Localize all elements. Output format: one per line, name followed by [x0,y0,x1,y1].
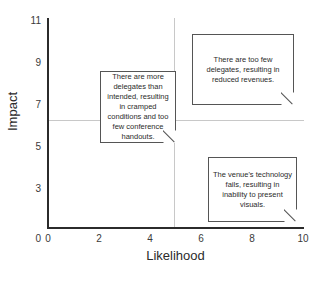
note-more-delegates-text: There are more delegates than intended, … [105,72,171,142]
y-axis-line [47,18,49,229]
x-tick-8: 8 [240,233,264,244]
x-tick-0: 0 [36,233,60,244]
risk-matrix-chart: 11 9 7 5 3 0 0 2 4 6 8 10 Impact Likelih… [0,0,315,282]
page-fold-icon [284,209,297,222]
note-technology-fails-text: The venue's technology fails, resulting … [213,170,292,210]
note-more-delegates: There are more delegates than intended, … [100,71,176,143]
note-technology-fails: The venue's technology fails, resulting … [208,157,297,222]
x-axis-line [47,227,304,229]
note-too-few-delegates-text: There are too few delegates, resulting i… [197,55,289,85]
x-tick-2: 2 [87,233,111,244]
note-too-few-delegates: There are too few delegates, resulting i… [192,34,294,105]
x-tick-6: 6 [189,233,213,244]
x-tick-10: 10 [291,233,315,244]
page-fold-icon [281,92,294,105]
x-axis-title: Likelihood [47,248,304,263]
y-axis-title: Impact [5,82,20,142]
x-tick-4: 4 [138,233,162,244]
gridline-horizontal [48,120,304,121]
